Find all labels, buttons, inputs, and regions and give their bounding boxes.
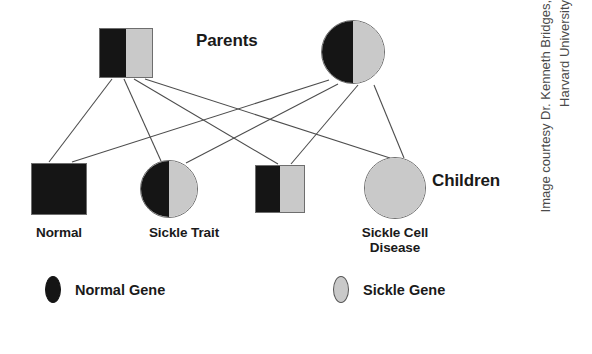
- child-label-sickle-trait: Sickle Trait: [128, 225, 240, 240]
- allele-normal-half: [256, 166, 280, 212]
- allele-normal-half: [59, 164, 86, 214]
- figure-root: Parents Children Normal Sickle Trait Sic…: [0, 0, 592, 354]
- parent-symbol-father: [99, 28, 153, 78]
- child-label-sickle-cell-disease: Sickle Cell Disease: [337, 225, 453, 255]
- legend-label-sickle-gene: Sickle Gene: [363, 282, 445, 298]
- legend-label-normal-gene: Normal Gene: [75, 282, 165, 298]
- normal-gene-icon: [45, 276, 61, 303]
- inheritance-diagram: Parents Children Normal Sickle Trait Sic…: [0, 0, 520, 354]
- child-symbol-sickle-trait: [140, 160, 198, 218]
- legend-item-normal-gene: Normal Gene: [45, 276, 165, 303]
- credit-line-1: Image courtesy Dr. Kenneth Bridges,: [537, 0, 556, 354]
- gene-legend: Normal Gene Sickle Gene: [0, 262, 520, 322]
- allele-sickle-half: [126, 29, 152, 77]
- parent-symbol-mother: [321, 20, 385, 84]
- parents-heading: Parents: [196, 31, 258, 51]
- allele-normal-half: [32, 164, 59, 214]
- sickle-gene-icon: [333, 276, 349, 303]
- allele-sickle-half: [280, 166, 304, 212]
- child-label-normal: Normal: [18, 225, 100, 240]
- credit-line-2: Harvard University: [556, 0, 575, 354]
- connection-line-mother-to-child-sickle-trait-2: [291, 85, 358, 164]
- child-symbol-sickle-cell-disease: [364, 157, 426, 219]
- connection-line-father-to-child-normal: [49, 79, 112, 162]
- children-heading: Children: [432, 171, 500, 191]
- image-credit: Image courtesy Dr. Kenneth Bridges, Harv…: [520, 0, 592, 354]
- allele-normal-half: [100, 29, 126, 77]
- connection-line-mother-to-child-sickle-cell-disease: [374, 85, 404, 158]
- child-symbol-normal: [31, 163, 87, 215]
- child-symbol-sickle-trait-2: [255, 165, 305, 213]
- legend-item-sickle-gene: Sickle Gene: [333, 276, 445, 303]
- connection-line-father-to-child-sickle-trait-2: [134, 79, 278, 164]
- connection-line-mother-to-child-normal: [72, 80, 329, 162]
